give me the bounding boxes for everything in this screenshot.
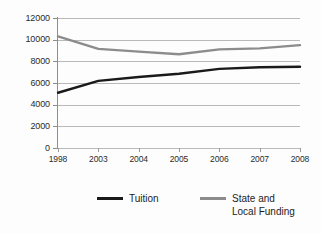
y-axis-tick-label: 2000 — [2, 122, 50, 131]
legend-swatch-state-and-local-funding — [200, 197, 226, 200]
y-axis-tick — [53, 126, 57, 127]
y-axis-tick — [53, 83, 57, 84]
y-axis-tick-label: 12000 — [2, 14, 50, 23]
y-axis-tick — [53, 61, 57, 62]
plot-area — [58, 18, 300, 148]
x-axis-tick — [98, 148, 99, 152]
legend-label-state-and-local-funding: State and Local Funding — [232, 192, 295, 218]
series-line-tuition — [58, 67, 300, 93]
x-axis-tick — [179, 148, 180, 152]
x-axis-tick-label: 2006 — [202, 154, 236, 164]
series-line-state-and-local-funding — [58, 36, 300, 54]
legend-swatch-tuition — [97, 197, 123, 200]
legend-item-state-and-local-funding[interactable]: State and Local Funding — [200, 192, 295, 218]
line-chart: 020004000600080001000012000 199820032004… — [0, 0, 321, 233]
y-axis-tick-label: 10000 — [2, 35, 50, 44]
x-axis-tick — [139, 148, 140, 152]
y-axis-tick-label: 8000 — [2, 57, 50, 66]
y-axis-tick — [53, 40, 57, 41]
x-axis-tick-label: 1998 — [41, 154, 75, 164]
x-axis-tick — [300, 148, 301, 152]
y-axis-tick — [53, 18, 57, 19]
chart-legend: Tuition State and Local Funding — [0, 189, 321, 233]
legend-item-tuition[interactable]: Tuition — [97, 192, 159, 205]
y-axis-tick-label: 6000 — [2, 79, 50, 88]
x-axis-tick-label: 2004 — [122, 154, 156, 164]
x-axis-tick — [58, 148, 59, 152]
y-axis-tick-label: 0 — [2, 144, 50, 153]
x-axis-tick-label: 2008 — [283, 154, 317, 164]
x-axis-tick — [260, 148, 261, 152]
series-lines — [58, 18, 300, 148]
x-axis-tick-label: 2003 — [81, 154, 115, 164]
y-axis-tick — [53, 148, 57, 149]
x-axis-tick — [219, 148, 220, 152]
y-axis-tick-label: 4000 — [2, 100, 50, 109]
x-axis-tick-label: 2007 — [243, 154, 277, 164]
y-axis-tick — [53, 105, 57, 106]
x-axis-tick-label: 2005 — [162, 154, 196, 164]
legend-label-tuition: Tuition — [129, 192, 159, 205]
